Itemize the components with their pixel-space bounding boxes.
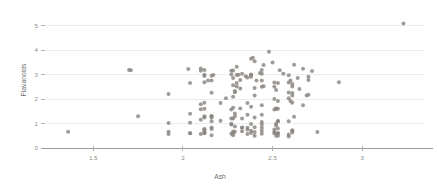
- data-point: [290, 94, 294, 98]
- data-point: [202, 73, 206, 77]
- x-axis-line: [42, 148, 433, 149]
- data-point: [229, 73, 233, 77]
- data-point: [210, 115, 214, 119]
- data-point: [210, 133, 214, 137]
- data-point: [262, 63, 266, 67]
- y-tick-label-3: 3: [35, 71, 39, 78]
- data-point: [199, 107, 203, 111]
- data-point: [278, 68, 282, 72]
- y-axis-title: Flavanoids: [20, 63, 27, 96]
- data-point: [231, 83, 235, 87]
- data-point: [281, 72, 285, 76]
- data-point: [260, 85, 264, 89]
- data-point: [296, 76, 300, 80]
- data-point: [188, 81, 192, 85]
- data-point: [199, 102, 203, 106]
- data-point: [253, 94, 257, 98]
- data-point: [202, 101, 206, 105]
- data-point: [260, 103, 264, 107]
- data-point: [199, 132, 203, 136]
- data-point: [210, 78, 214, 82]
- data-point: [235, 73, 239, 77]
- data-point: [253, 115, 257, 119]
- data-point: [274, 134, 278, 138]
- data-point: [271, 61, 275, 65]
- data-point: [290, 129, 294, 133]
- data-point: [245, 113, 249, 117]
- scatter-chart: 012345 1.522.53 Ash Flavanoids: [0, 0, 437, 185]
- data-point: [253, 134, 257, 138]
- data-point: [206, 78, 210, 82]
- data-point: [233, 130, 237, 134]
- data-point: [249, 122, 253, 126]
- data-point: [210, 74, 214, 78]
- data-point: [202, 115, 206, 119]
- data-point: [210, 127, 214, 131]
- y-tick-label-0: 0: [35, 144, 39, 151]
- data-point: [202, 68, 206, 72]
- data-point: [231, 133, 235, 137]
- data-point: [253, 86, 257, 90]
- data-point: [337, 80, 341, 84]
- chart-canvas: 012345 1.522.53 Ash Flavanoids: [0, 0, 437, 185]
- data-point: [301, 67, 305, 71]
- data-point: [267, 50, 271, 54]
- data-point: [306, 78, 310, 82]
- data-point: [260, 68, 264, 72]
- data-point: [272, 127, 276, 131]
- data-point: [272, 80, 276, 84]
- data-point: [297, 87, 301, 91]
- data-point: [274, 122, 278, 126]
- data-point: [231, 117, 235, 121]
- x-tick-labels-group: 1.522.53: [89, 154, 365, 161]
- data-point: [287, 90, 291, 94]
- data-point: [240, 129, 244, 133]
- data-point: [231, 76, 235, 80]
- data-point: [219, 101, 223, 105]
- data-point: [188, 131, 192, 135]
- data-point: [244, 74, 248, 78]
- data-point: [238, 107, 242, 111]
- data-point: [287, 133, 291, 137]
- data-point: [260, 78, 264, 82]
- data-point: [274, 107, 278, 111]
- data-point: [310, 69, 314, 73]
- data-point: [167, 92, 171, 96]
- data-point: [272, 97, 276, 101]
- data-point: [249, 57, 253, 61]
- data-point: [260, 129, 264, 133]
- data-point: [219, 119, 223, 123]
- data-point: [199, 69, 203, 73]
- data-point: [260, 120, 264, 124]
- data-point: [288, 78, 292, 82]
- data-point: [287, 119, 291, 123]
- data-point: [233, 124, 237, 128]
- data-point: [249, 75, 253, 79]
- data-point: [235, 81, 239, 85]
- data-point: [129, 68, 133, 72]
- data-point: [287, 73, 291, 77]
- data-point: [292, 115, 296, 119]
- data-point: [254, 78, 258, 82]
- data-point: [202, 80, 206, 84]
- data-point: [240, 117, 244, 121]
- y-tick-label-4: 4: [35, 46, 39, 53]
- y-tick-label-1: 1: [35, 120, 39, 127]
- y-tick-label-5: 5: [35, 22, 39, 29]
- data-point: [199, 118, 203, 122]
- x-tick-label-2.5: 2.5: [268, 154, 277, 161]
- data-point: [229, 122, 233, 126]
- data-point: [245, 101, 249, 105]
- data-point: [290, 101, 294, 105]
- data-point: [249, 131, 253, 135]
- data-point: [253, 59, 257, 63]
- data-point: [66, 130, 70, 134]
- data-point: [253, 130, 257, 134]
- data-point: [235, 85, 239, 89]
- data-point: [224, 96, 228, 100]
- data-point: [229, 108, 233, 112]
- data-point: [253, 125, 257, 129]
- data-point: [292, 63, 296, 67]
- data-point: [315, 130, 319, 134]
- y-tick-label-2: 2: [35, 95, 39, 102]
